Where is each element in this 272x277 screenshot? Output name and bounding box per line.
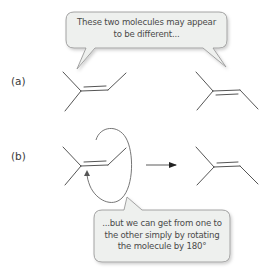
callout-bottom-line-1: ...but we can get from one to bbox=[94, 218, 230, 230]
callout-bottom-text: ...but we can get from one to the other … bbox=[94, 218, 230, 253]
callout-top-line-1: These two molecules may appear bbox=[66, 17, 227, 29]
callout-bottom-line-2: the other simply by rotating bbox=[94, 230, 230, 242]
callout-top-line-2: to be different... bbox=[66, 29, 227, 41]
row-label-b: (b) bbox=[11, 150, 26, 162]
molecule-b-left bbox=[63, 147, 126, 185]
molecule-b-right bbox=[196, 147, 258, 185]
molecule-a-left bbox=[63, 72, 126, 111]
row-label-a: (a) bbox=[11, 75, 26, 87]
callout-top-text: These two molecules may appear to be dif… bbox=[66, 17, 227, 40]
molecule-a-right bbox=[196, 72, 258, 110]
callout-bottom-line-3: the molecule by 180° bbox=[94, 241, 230, 253]
